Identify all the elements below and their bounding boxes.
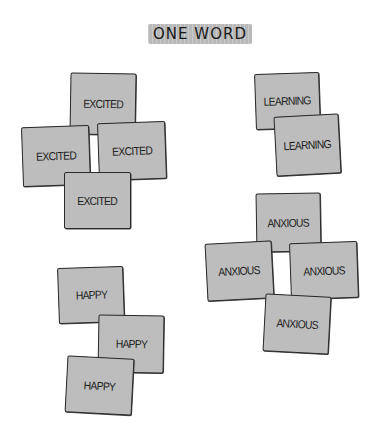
sticky-note-label: HAPPY (75, 288, 107, 301)
sticky-note-label: LEARNING (264, 94, 312, 108)
sticky-note-learning[interactable]: LEARNING (273, 113, 341, 176)
sticky-note-anxious[interactable]: ANXIOUS (205, 240, 275, 301)
sticky-note-label: HAPPY (115, 338, 147, 351)
sticky-note-anxious[interactable]: ANXIOUS (289, 241, 359, 300)
sticky-note-label: EXCITED (83, 98, 123, 111)
sticky-note-label: ANXIOUS (303, 264, 345, 277)
sticky-note-anxious[interactable]: ANXIOUS (263, 293, 332, 354)
sticky-note-label: ANXIOUS (218, 264, 260, 278)
sticky-note-label: EXCITED (78, 195, 118, 207)
title-text: ONE WORD (148, 25, 252, 43)
sticky-note-label: ANXIOUS (276, 317, 318, 331)
sticky-note-label: HAPPY (83, 379, 115, 393)
sticky-note-label: ANXIOUS (268, 216, 310, 229)
sticky-note-happy[interactable]: HAPPY (65, 355, 135, 415)
board-title: ONE WORD (148, 22, 252, 46)
sticky-note-label: EXCITED (36, 149, 76, 162)
sticky-note-excited[interactable]: EXCITED (64, 172, 131, 229)
sticky-note-label: EXCITED (112, 144, 152, 157)
sticky-note-label: LEARNING (284, 138, 332, 152)
